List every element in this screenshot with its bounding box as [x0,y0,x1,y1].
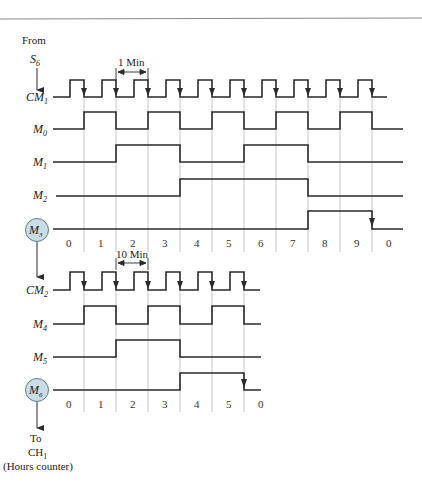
count-row-bottom: 0 1 2 3 4 5 0 [66,398,264,410]
clock-edge-arrows-cm2 [81,281,247,289]
waveform-cm1 [53,80,387,97]
source-label: From [22,34,46,46]
m6-edge-arrow [241,379,247,388]
timing-diagram: From S6 1 Min CM1 M0 M1 M2 M3 [0,0,422,492]
waveform-m0 [53,112,403,129]
svg-text:5: 5 [226,398,232,410]
signal-label-m0: M0 [32,122,47,138]
svg-text:0: 0 [258,398,264,410]
output-label-to: To [30,432,42,444]
count-row-top: 0 1 2 3 4 5 6 7 8 9 0 [66,237,392,249]
signal-label-m1: M1 [32,155,47,171]
svg-text:0: 0 [66,398,72,410]
top-rule [0,18,422,19]
signal-label-cm1: CM1 [26,90,48,106]
node-m3: M3 [26,219,49,242]
waveform-m4 [53,306,261,324]
bottom-gridlines [84,290,244,412]
output-label-hours-counter: (Hours counter) [3,460,73,473]
svg-text:8: 8 [322,237,328,249]
interval-arrow-1min [116,68,148,80]
interval-label-10min: 10 Min [116,248,149,260]
waveform-m1 [53,145,403,162]
svg-text:5: 5 [226,237,232,249]
svg-text:4: 4 [194,398,200,410]
interval-label-1min: 1 Min [118,56,145,68]
svg-text:9: 9 [354,237,360,249]
svg-text:1: 1 [98,398,104,410]
svg-text:3: 3 [162,398,168,410]
waveform-m3 [53,211,403,229]
waveform-m2 [56,179,403,196]
output-label-ch1: CH1 [28,446,47,461]
svg-text:6: 6 [258,237,264,249]
signal-label-m5: M5 [32,350,47,366]
signal-label-m4: M4 [32,317,47,333]
svg-text:0: 0 [66,237,72,249]
svg-text:7: 7 [290,237,296,249]
svg-text:1: 1 [98,237,104,249]
svg-text:3: 3 [162,237,168,249]
svg-text:4: 4 [194,237,200,249]
svg-text:0: 0 [386,237,392,249]
svg-text:2: 2 [130,398,136,410]
m3-edge-arrow [369,218,375,227]
signal-label-cm2: CM2 [26,283,48,299]
node-m6: M6 [26,379,49,402]
source-signal: S6 [30,52,40,68]
clock-edge-arrows-cm1 [81,88,375,96]
signal-label-m2: M2 [32,188,47,204]
